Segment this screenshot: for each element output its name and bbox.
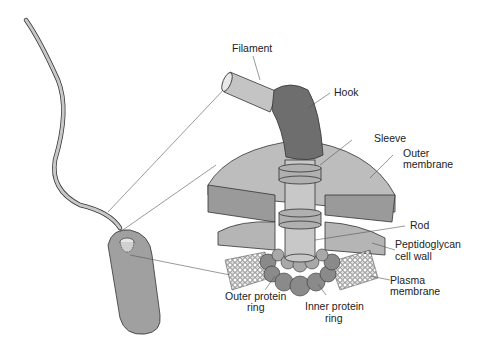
label-inner-ring-1: Inner protein xyxy=(305,300,364,312)
label-peptidoglycan-2: cell wall xyxy=(395,250,432,262)
label-outer-ring-2: ring xyxy=(247,301,265,313)
label-outer-membrane-2: membrane xyxy=(403,158,453,170)
label-inner-ring-2: ring xyxy=(325,312,343,324)
label-peptidoglycan-1: Peptidoglycan xyxy=(395,238,461,250)
flagellum-diagram: Filament Hook Sleeve Outer membrane Rod … xyxy=(0,0,483,345)
bacterium-cell xyxy=(108,230,160,334)
label-plasma-2: membrane xyxy=(390,285,440,297)
filament xyxy=(220,71,278,112)
label-rod: Rod xyxy=(410,219,429,231)
label-sleeve: Sleeve xyxy=(374,132,406,144)
label-hook: Hook xyxy=(334,86,359,98)
label-filament: Filament xyxy=(232,42,272,54)
flagellum-tail xyxy=(26,20,120,228)
